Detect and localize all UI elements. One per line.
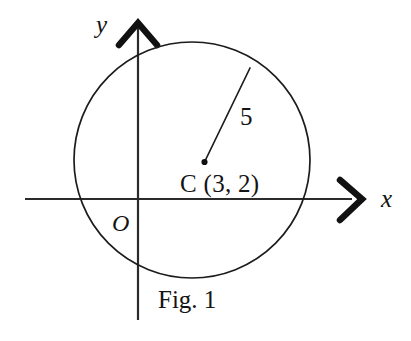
figure-container: y x O C (3, 2) 5 Fig. 1	[0, 0, 411, 341]
origin-label: O	[112, 211, 129, 235]
y-axis-label: y	[96, 12, 107, 37]
radius-length-label: 5	[240, 104, 253, 129]
x-axis-label: x	[381, 186, 392, 211]
center-dot-icon	[201, 159, 207, 165]
circle-shape	[74, 42, 310, 278]
figure-caption: Fig. 1	[158, 287, 216, 312]
circle-center-label: C (3, 2)	[180, 171, 259, 196]
